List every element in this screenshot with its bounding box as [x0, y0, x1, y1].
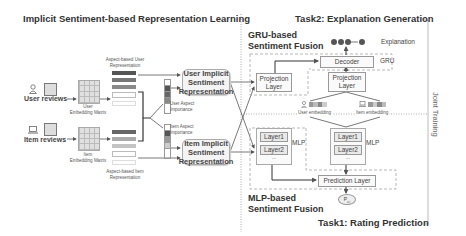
diagram-connectors	[0, 0, 466, 236]
mlp-left-ellipsis: ...	[257, 155, 291, 161]
item-reviews-label: Item reviews	[24, 136, 66, 143]
item-embedding-matrix	[78, 127, 100, 151]
mlp-right-layer1: Layer1	[334, 132, 362, 142]
mlp-left-label: MLP	[292, 139, 305, 146]
gru-fusion-title: GRU-based Sentiment Fusion	[248, 30, 324, 52]
laptop-icon	[359, 101, 366, 107]
user-embedding-matrix-label: User Embedding Matrix	[65, 104, 111, 115]
mlp-right: Layer1 Layer2 ...	[330, 128, 366, 165]
projection-layer-left: Projection Layer	[256, 73, 292, 92]
mlp-left: Layer1 Layer2 ...	[256, 128, 292, 165]
user-embedding-matrix	[78, 80, 100, 104]
task2-title: Task2: Explanation Generation	[295, 13, 434, 24]
aspect-user-rep-blocks	[112, 71, 136, 105]
mlp-right-ellipsis: ...	[331, 155, 365, 161]
explanation-label: Explanation	[381, 38, 415, 45]
item-aspect-importance-label: Item Aspect Importance	[170, 124, 194, 135]
projection-layer-right: Projection Layer	[328, 72, 366, 92]
user-implicit-sentiment-representation: User Implicit Sentiment Representation	[182, 69, 230, 95]
item-embedding-vector	[368, 102, 386, 107]
user-icon	[301, 101, 307, 108]
mlp-right-label: MLP	[366, 139, 379, 146]
laptop-icon	[28, 126, 38, 134]
left-panel-title: Implicit Sentiment-based Representation …	[23, 13, 250, 24]
prediction-layer: Prediction Layer	[318, 175, 376, 187]
user-icon	[29, 84, 37, 94]
joint-training-label: Joint Training	[431, 92, 440, 137]
aspect-item-rep-blocks	[112, 130, 136, 164]
gru-label: GRU	[380, 57, 394, 64]
user-reviews-label: User reviews	[24, 95, 67, 102]
output-subscript: u,i	[347, 200, 350, 204]
item-embedding-matrix-label: Item Embedding Matrix	[65, 152, 111, 163]
review-document-icon	[44, 123, 57, 136]
user-aspect-importance-label: User Aspect Importance	[170, 101, 194, 112]
item-embedding-label: Item embedding	[355, 110, 389, 116]
user-embedding-label: User embedding	[297, 110, 332, 116]
aspect-user-rep-label: Aspect-based User Representation	[100, 57, 150, 68]
mlp-fusion-title: MLP-based Sentiment Fusion	[248, 193, 324, 215]
item-implicit-sentiment-representation: Item Implicit Sentiment Representation	[182, 139, 230, 165]
user-embedding-vector	[309, 102, 327, 107]
rating-output-node: Pu,i	[338, 194, 356, 205]
aspect-item-rep-label: Aspect-based Item Representation	[100, 169, 150, 180]
decoder-box: Decoder	[320, 56, 374, 68]
task1-title: Task1: Rating Prediction	[318, 217, 429, 228]
mlp-left-layer1: Layer1	[260, 132, 288, 142]
